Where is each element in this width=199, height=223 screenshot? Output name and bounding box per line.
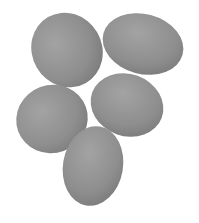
- egg-top-right: [96, 4, 191, 83]
- eggs-photo: [0, 0, 199, 223]
- photo-frame: [0, 0, 199, 223]
